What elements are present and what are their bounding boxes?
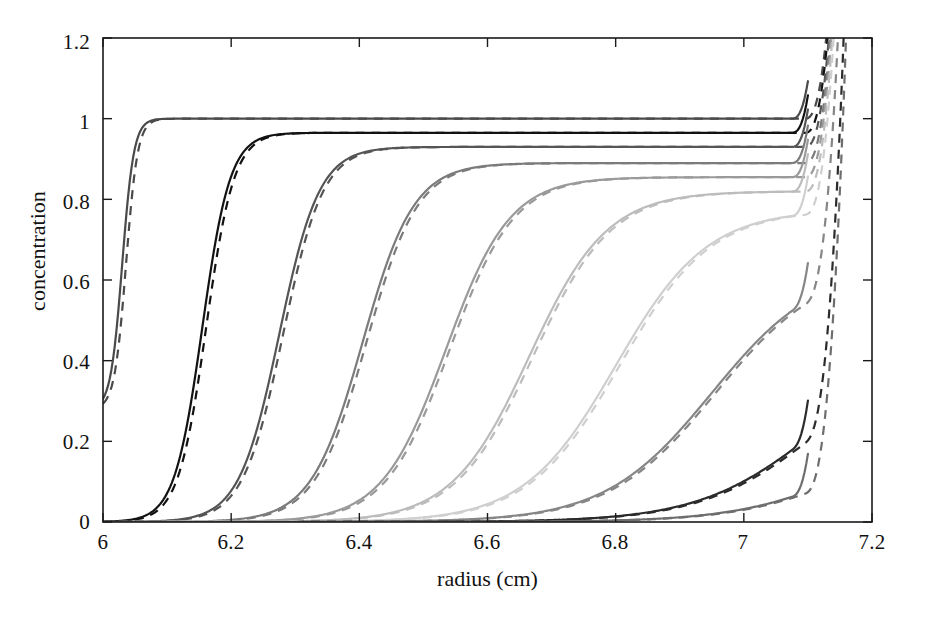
y-tick-label-1: 1 [38,110,90,135]
curve-dashed-8 [103,0,846,522]
x-tick-label-7: 7 [703,530,783,555]
curve-dashed-7 [103,0,845,522]
curve-solid-1 [103,81,808,399]
x-tick-label-6_6: 6.6 [447,530,527,555]
curve-dashed-1 [103,29,827,404]
x-tick-label-6_2: 6.2 [191,530,271,555]
curve-solid-5 [103,140,808,522]
x-tick-label-7_2: 7.2 [832,530,912,555]
y-axis-title: concentration [25,151,51,351]
curves-layer [103,0,846,522]
figure-container: 0 0.2 0.4 0.6 0.8 1 1.2 6 6.2 6.4 6.6 6.… [0,0,925,621]
x-tick-label-6_8: 6.8 [575,530,655,555]
curve-dashed-6 [103,0,843,522]
curve-solid-9 [103,401,808,522]
curve-solid-6 [103,154,808,522]
x-axis-title: radius (cm) [103,566,872,592]
curve-dashed-5 [103,0,841,522]
x-tick-label-6: 6 [63,530,143,555]
curve-solid-7 [103,177,808,522]
curve-solid-2 [103,95,808,521]
axes-layer [103,38,872,522]
y-tick-label-0_4: 0.4 [38,350,90,375]
chart-plot-area [0,0,925,621]
y-tick-label-1_2: 1.2 [38,30,90,55]
x-tick-label-6_4: 6.4 [319,530,399,555]
y-tick-label-0_2: 0.2 [38,430,90,455]
axes-frame [103,38,872,522]
curve-dashed-9 [103,0,846,522]
curve-dashed-4 [103,0,840,522]
